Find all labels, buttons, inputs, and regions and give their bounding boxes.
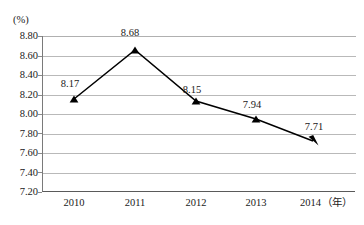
y-tick-mark-8 [38, 192, 42, 193]
data-label-2010: 8.17 [61, 78, 79, 90]
y-tick-label-5: 7.80 [4, 128, 38, 139]
gridline-8-80 [43, 36, 356, 37]
x-tick-label-2012: 2012 [186, 197, 207, 209]
y-tick-label-1: 8.60 [4, 50, 38, 61]
y-tick-label-3: 8.20 [4, 89, 38, 100]
x-tick-label-2014: 2014（年） [300, 197, 352, 209]
x-tick-label-2013: 2013 [246, 197, 267, 209]
y-tick-label-6: 7.60 [4, 147, 38, 158]
gridline-7-60 [43, 153, 356, 154]
y-axis-unit-label: (%) [13, 14, 29, 26]
y-tick-label-0: 8.80 [4, 30, 38, 41]
gridline-7-80 [43, 134, 356, 135]
gridline-8-00 [43, 114, 356, 115]
y-tick-label-8: 7.20 [4, 186, 38, 197]
line-chart: (%) 8.80 8.60 8.40 8.20 8.00 7.80 7.60 7… [0, 0, 364, 225]
data-label-2011: 8.68 [121, 27, 139, 39]
plot-area [42, 36, 355, 192]
data-label-2014: 7.71 [305, 121, 323, 133]
x-tick-label-2011: 2011 [125, 197, 146, 209]
gridline-7-40 [43, 173, 356, 174]
y-tick-label-4: 8.00 [4, 108, 38, 119]
gridline-8-40 [43, 75, 356, 76]
x-tick-label-2010: 2010 [64, 197, 85, 209]
data-label-2013: 7.94 [243, 99, 261, 111]
data-label-2012: 8.15 [183, 84, 201, 96]
gridline-8-60 [43, 56, 356, 57]
y-tick-label-2: 8.40 [4, 69, 38, 80]
x-axis-unit-suffix: （年） [322, 197, 352, 208]
y-tick-label-7: 7.40 [4, 167, 38, 178]
x-tick-label-2014-year: 2014 [300, 197, 321, 208]
